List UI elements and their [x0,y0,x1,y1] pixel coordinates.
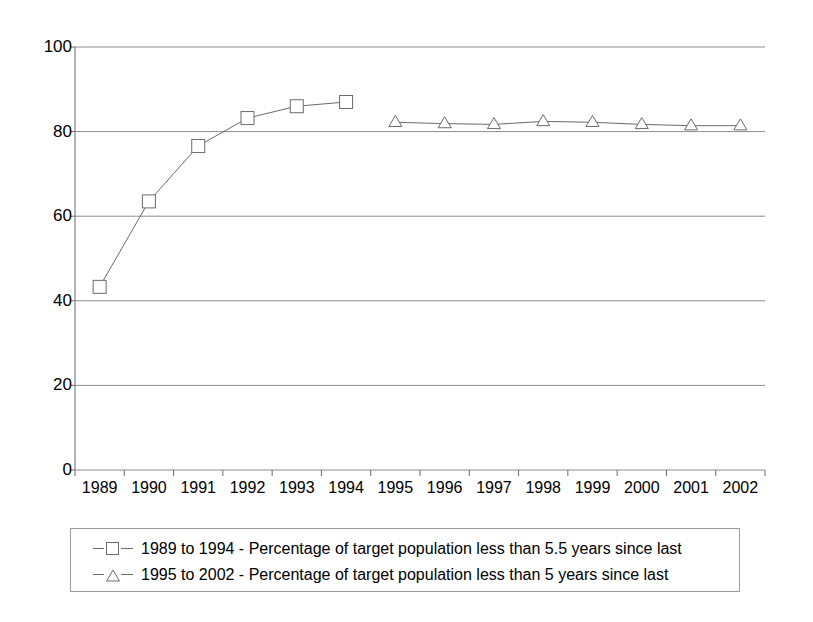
data-point-marker [685,119,698,130]
data-point-marker [537,115,550,126]
y-tick-label: 20 [26,376,72,393]
y-tick-label: 40 [26,292,72,309]
x-tick-label: 1996 [420,480,469,496]
data-point-marker [734,119,747,130]
chart-page: 100806040200 198919901991199219931994199… [0,0,813,622]
data-point-marker [142,195,155,208]
x-tick-label: 2002 [716,480,765,496]
chart-legend: 1989 to 1994 - Percentage of target popu… [70,528,740,592]
square-marker-icon [93,539,133,559]
y-tick-label: 100 [26,38,72,55]
data-point-marker [93,280,106,293]
x-tick-label: 1999 [568,480,617,496]
x-tick-label: 2000 [617,480,666,496]
data-point-marker [192,139,205,152]
x-tick-label: 1998 [519,480,568,496]
x-tick-label: 1994 [321,480,370,496]
legend-item-series-1[interactable]: 1989 to 1994 - Percentage of target popu… [93,537,682,561]
x-tick-label: 2001 [666,480,715,496]
y-tick-label: 60 [26,207,72,224]
series-line-1 [100,102,347,287]
legend-item-label: 1995 to 2002 - Percentage of target popu… [141,566,668,584]
x-tick-label: 1997 [469,480,518,496]
x-tick-label: 1990 [124,480,173,496]
data-point-marker [290,100,303,113]
data-point-marker [586,115,599,126]
x-tick-label: 1991 [174,480,223,496]
x-tick-label: 1995 [371,480,420,496]
y-tick-label: 80 [26,123,72,140]
data-point-marker [389,115,402,126]
triangle-marker-icon [93,565,133,585]
chart-svg [0,0,813,505]
data-point-marker [340,95,353,108]
legend-item-series-2[interactable]: 1995 to 2002 - Percentage of target popu… [93,563,668,587]
data-point-marker [438,117,451,128]
chart-plot-area [0,0,813,505]
x-tick-label: 1989 [75,480,124,496]
data-point-marker [487,118,500,129]
legend-item-label: 1989 to 1994 - Percentage of target popu… [141,540,682,558]
y-tick-label: 0 [26,461,72,478]
x-tick-label: 1993 [272,480,321,496]
data-point-marker [241,112,254,125]
x-tick-label: 1992 [223,480,272,496]
data-point-marker [635,118,648,129]
